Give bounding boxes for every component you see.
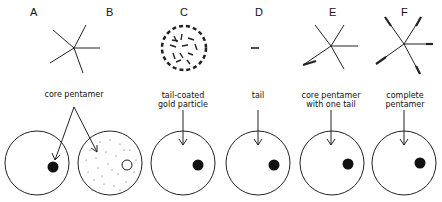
panel-letter-f: F — [401, 6, 408, 18]
caption-core-tail-line2: with one tail — [298, 100, 364, 109]
core-pentamer-icon — [50, 25, 100, 73]
panel-letter-a: A — [30, 6, 37, 18]
panel-letter-e: E — [329, 6, 336, 18]
caption-tail-coated-line2: gold particle — [153, 100, 213, 109]
panel-letter-d: D — [255, 6, 263, 18]
caption-complete-line1: complete — [380, 91, 430, 100]
vacuole-b — [122, 160, 132, 170]
diagram-canvas — [0, 0, 442, 202]
caption-tail-coated-line1: tail-coated — [153, 91, 213, 100]
complete-pentamer-icon — [376, 17, 433, 74]
cell-b — [78, 131, 142, 195]
core-pentamer-with-tail-icon — [303, 25, 358, 69]
panel-letter-c: C — [180, 6, 188, 18]
caption-complete-line2: pentamer — [380, 100, 430, 109]
panel-letter-b: B — [106, 6, 113, 18]
cell-a — [5, 131, 69, 195]
cell-e — [300, 131, 364, 195]
caption-core-tail-line1: core pentamer — [298, 91, 364, 100]
arrows — [52, 107, 408, 160]
caption-tail: tail — [238, 91, 278, 100]
gold-particle-icon — [162, 26, 206, 70]
caption-core-pentamer: core pentamer — [44, 90, 104, 99]
